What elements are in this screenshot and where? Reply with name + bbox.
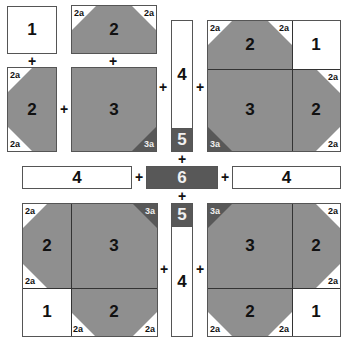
br-piece-2b-label: 2 xyxy=(208,288,292,336)
bl-piece-1-label: 1 xyxy=(23,288,71,336)
mid-strip-6: 6 xyxy=(146,166,218,189)
plus-sign: + xyxy=(107,54,119,68)
bl-piece-2-label: 2 xyxy=(23,204,71,288)
plus-sign: + xyxy=(58,102,70,116)
br-piece-3-label: 3 xyxy=(208,204,292,288)
br-piece-1-label: 1 xyxy=(292,288,340,336)
plus-sign: + xyxy=(133,170,145,184)
tr-piece-1-label: 1 xyxy=(292,21,340,69)
tr-piece-2-label: 2 xyxy=(208,21,292,69)
bl-piece-2b-label: 2 xyxy=(71,288,157,336)
tl-block-2-top: 2a 2a 2 xyxy=(71,5,157,54)
tl-block-1-label: 1 xyxy=(8,7,56,53)
top-strip-5-label: 5 xyxy=(172,129,192,151)
bl-piece-3-label: 3 xyxy=(71,204,157,288)
tl-block-2-left: 2a 2a 2 xyxy=(7,67,57,152)
tl-block-2-left-label: 2 xyxy=(8,68,56,151)
plus-sign: + xyxy=(194,80,206,94)
tl-block-3: 3a 3 xyxy=(71,67,157,152)
bottom-strip-4: 4 xyxy=(171,226,193,337)
tl-block-3-label: 3 xyxy=(72,68,156,151)
mid-strip-4-left-label: 4 xyxy=(23,167,131,188)
tl-block-2-top-label: 2 xyxy=(72,6,156,53)
br-piece-2-label: 2 xyxy=(292,204,340,288)
bottom-strip-4-label: 4 xyxy=(172,227,192,336)
plus-sign: + xyxy=(219,170,231,184)
bottom-strip-5: 5 xyxy=(171,203,193,227)
plus-sign: + xyxy=(26,54,38,68)
mid-strip-4-right-label: 4 xyxy=(233,167,340,188)
bl-assembled: 2a 2a 2a 2a 3a 2 3 1 2 xyxy=(22,203,158,337)
tr-assembled: 2a 2a 2a 2a 3a 2 1 3 2 xyxy=(207,20,341,152)
tl-block-1: 1 xyxy=(7,6,57,54)
top-strip-4: 4 xyxy=(171,20,193,129)
mid-strip-4-right: 4 xyxy=(232,166,341,189)
mid-strip-4-left: 4 xyxy=(22,166,132,189)
mid-strip-6-label: 6 xyxy=(147,167,217,188)
tr-piece-2b-label: 2 xyxy=(292,69,340,151)
top-strip-4-label: 4 xyxy=(172,21,192,128)
plus-sign: + xyxy=(157,80,169,94)
plus-sign: + xyxy=(176,189,188,203)
top-strip-5: 5 xyxy=(171,128,193,152)
br-assembled: 3a 2a 2a 2a 2a 3 2 2 1 xyxy=(207,203,341,337)
plus-sign: + xyxy=(176,152,188,166)
plus-sign: + xyxy=(158,262,170,276)
tr-piece-3-label: 3 xyxy=(208,69,292,151)
bottom-strip-5-label: 5 xyxy=(172,204,192,226)
plus-sign: + xyxy=(194,262,206,276)
